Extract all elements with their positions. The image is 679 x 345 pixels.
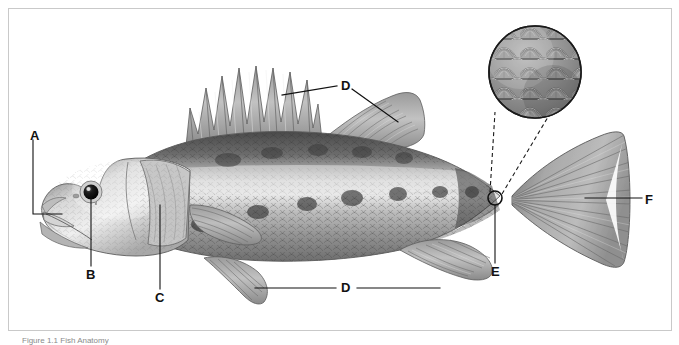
label-d-bottom: D — [341, 281, 350, 294]
anal-fin — [400, 240, 492, 280]
label-c: C — [155, 291, 164, 304]
label-a: A — [30, 129, 39, 142]
label-f: F — [645, 193, 653, 206]
magnified-scales-inset — [486, 21, 586, 125]
fish-head — [38, 155, 198, 261]
operculum — [140, 160, 190, 248]
fish-anatomy-diagram — [0, 0, 679, 345]
caudal-fin — [508, 132, 631, 267]
label-d-top: D — [341, 79, 350, 92]
figure-caption: Figure 1.1 Fish Anatomy — [22, 336, 109, 345]
pelvic-fin — [204, 257, 267, 304]
label-e: E — [491, 265, 500, 278]
label-b: B — [86, 268, 95, 281]
